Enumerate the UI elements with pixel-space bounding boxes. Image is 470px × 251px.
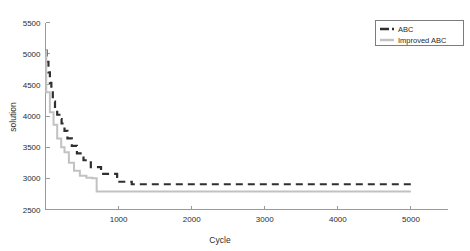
x-tick-label: 3000 <box>256 215 274 224</box>
y-axis-tick-labels: 2500300035004000450050005500 <box>23 19 41 215</box>
x-tick-marks <box>119 206 411 210</box>
x-tick-label: 2000 <box>183 215 201 224</box>
y-axis-title: solution <box>8 102 18 132</box>
series-line-abc <box>46 51 411 185</box>
series-line-improved-abc <box>46 51 411 192</box>
y-tick-label: 5500 <box>23 19 41 28</box>
legend-label: ABC <box>398 25 414 34</box>
y-tick-label: 4500 <box>23 81 41 90</box>
y-tick-label: 3000 <box>23 174 41 183</box>
solution-convergence-chart: 2500300035004000450050005500 10002000300… <box>0 0 470 251</box>
x-tick-label: 1000 <box>110 215 128 224</box>
x-tick-label: 5000 <box>402 215 420 224</box>
chart-screenshot: 2500300035004000450050005500 10002000300… <box>0 0 470 251</box>
x-tick-label: 4000 <box>329 215 347 224</box>
axis-spines <box>46 23 448 210</box>
y-tick-label: 3500 <box>23 143 41 152</box>
y-tick-label: 2500 <box>23 206 41 215</box>
data-series-layer <box>46 51 411 192</box>
x-axis-tick-labels: 10002000300040005000 <box>110 215 421 224</box>
plot-axes <box>46 23 448 210</box>
y-tick-label: 5000 <box>23 50 41 59</box>
legend-label: Improved ABC <box>398 36 447 45</box>
y-tick-label: 4000 <box>23 112 41 121</box>
x-axis-title: Cycle <box>209 235 231 245</box>
chart-legend: ABCImproved ABC <box>375 20 463 45</box>
